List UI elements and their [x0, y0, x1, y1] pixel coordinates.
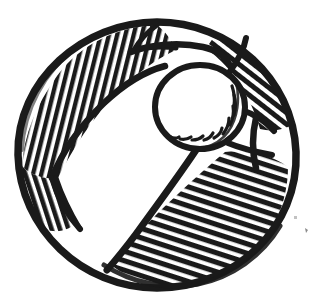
center-circle [155, 65, 245, 149]
drawing-canvas: Beach Ball Line Drawing [0, 0, 317, 306]
seam-right-white-left [253, 118, 256, 168]
beach-ball-illustration: Beach Ball Line Drawing [0, 0, 317, 306]
speck-right-upper [294, 216, 297, 219]
